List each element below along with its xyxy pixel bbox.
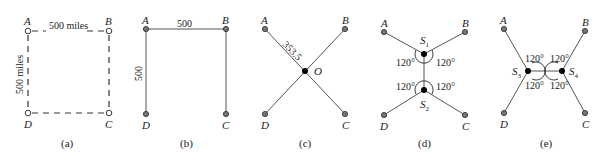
label-b: B bbox=[462, 17, 469, 29]
label-s3: S3 bbox=[512, 65, 522, 80]
city-a bbox=[262, 26, 267, 31]
edge-b-s1 bbox=[424, 32, 465, 54]
label-s4: S4 bbox=[569, 65, 579, 80]
caption-e: (e) bbox=[540, 137, 553, 150]
city-d bbox=[25, 110, 31, 116]
label-b: B bbox=[105, 15, 112, 27]
city-d bbox=[381, 112, 386, 117]
panel-d: A B D C S1 S2 120° 120° 120° 120° (d) bbox=[379, 17, 470, 150]
city-b bbox=[342, 26, 347, 31]
label-c: C bbox=[105, 118, 113, 130]
distance-label-top: 500 bbox=[177, 18, 192, 29]
label-c: C bbox=[582, 118, 590, 130]
edge-s2-c bbox=[424, 90, 465, 115]
angle-label-1: 120° bbox=[525, 53, 544, 64]
caption-c: (c) bbox=[299, 137, 312, 150]
edge-s3-d bbox=[504, 71, 528, 113]
angle-label-4: 120° bbox=[550, 80, 569, 91]
label-s2: S2 bbox=[420, 98, 430, 113]
city-a bbox=[501, 26, 506, 31]
city-a bbox=[381, 29, 386, 34]
city-c bbox=[106, 110, 112, 116]
city-b bbox=[106, 28, 112, 34]
label-b: B bbox=[222, 14, 229, 26]
edge-s4-c bbox=[562, 71, 585, 113]
edge-s2-d bbox=[384, 90, 424, 115]
caption-b: (b) bbox=[180, 137, 193, 150]
city-c bbox=[582, 110, 587, 115]
angle-label-2: 120° bbox=[436, 57, 455, 68]
city-c bbox=[462, 112, 467, 117]
city-b bbox=[582, 28, 587, 33]
label-a: A bbox=[23, 15, 31, 27]
label-c: C bbox=[342, 119, 350, 131]
caption-d: (d) bbox=[418, 137, 431, 150]
steiner-point-s4 bbox=[559, 68, 565, 74]
panel-a: A B D C 500 miles 500 miles (a) bbox=[14, 15, 113, 150]
steiner-point-s2 bbox=[421, 87, 427, 93]
label-o: O bbox=[314, 65, 322, 77]
label-b: B bbox=[342, 14, 349, 26]
label-d: D bbox=[23, 118, 32, 130]
angle-label-3: 120° bbox=[396, 81, 415, 92]
label-a: A bbox=[141, 14, 149, 26]
steiner-point-s1 bbox=[421, 51, 427, 57]
distance-label-diagonal: 353.5 bbox=[281, 39, 305, 63]
panel-b: A B D C 500 500 (b) bbox=[133, 14, 230, 150]
angle-label-3: 120° bbox=[525, 80, 544, 91]
edge-a-s1 bbox=[384, 32, 424, 54]
city-d bbox=[143, 111, 148, 116]
label-b: B bbox=[582, 16, 589, 28]
angle-label-2: 120° bbox=[550, 53, 569, 64]
distance-label-side: 500 miles bbox=[14, 55, 25, 94]
label-a: A bbox=[380, 17, 388, 29]
panel-e: A B D C S3 S4 120° 120° 120° 120° (e) bbox=[499, 14, 590, 150]
angle-label-1: 120° bbox=[396, 57, 415, 68]
label-d: D bbox=[260, 119, 269, 131]
label-d: D bbox=[379, 120, 388, 132]
city-c bbox=[223, 111, 228, 116]
city-c bbox=[342, 111, 347, 116]
city-b bbox=[462, 29, 467, 34]
center-point-o bbox=[302, 68, 308, 74]
steiner-point-s3 bbox=[525, 68, 531, 74]
label-a: A bbox=[260, 14, 268, 26]
city-a bbox=[25, 28, 31, 34]
city-b bbox=[223, 26, 228, 31]
distance-label-side: 500 bbox=[133, 66, 144, 81]
label-d: D bbox=[141, 119, 150, 131]
label-s1: S1 bbox=[420, 34, 430, 49]
angle-label-4: 120° bbox=[436, 81, 455, 92]
label-c: C bbox=[222, 119, 230, 131]
city-d bbox=[262, 111, 267, 116]
label-d: D bbox=[499, 118, 508, 130]
distance-label-top: 500 miles bbox=[49, 20, 88, 31]
city-a bbox=[143, 26, 148, 31]
label-c: C bbox=[462, 120, 470, 132]
panel-c: A B D C O 353.5 (c) bbox=[260, 14, 350, 150]
caption-a: (a) bbox=[61, 137, 74, 150]
label-a: A bbox=[499, 14, 507, 26]
city-d bbox=[501, 110, 506, 115]
steiner-diagram: A B D C 500 miles 500 miles (a) A B D C … bbox=[0, 0, 602, 155]
